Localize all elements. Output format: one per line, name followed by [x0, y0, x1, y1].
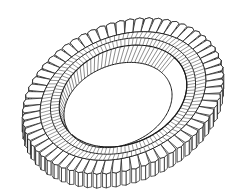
tooth-side: [31, 145, 34, 161]
tooth-side: [47, 160, 51, 175]
tooth-side: [93, 173, 97, 188]
tooth-side: [112, 172, 116, 187]
washer-drawing: [0, 0, 244, 192]
tooth-side: [61, 168, 65, 182]
tooth-side: [97, 173, 101, 188]
tooth-side: [151, 162, 155, 177]
tooth-side: [116, 171, 120, 187]
tooth-top: [125, 19, 134, 33]
tooth-side: [141, 166, 145, 180]
tooth-side: [132, 169, 136, 183]
tooth-side: [103, 173, 107, 188]
tooth-side: [136, 166, 140, 182]
washer-diagram: [0, 0, 244, 192]
tooth-side: [87, 173, 91, 188]
tooth-side: [41, 156, 45, 171]
tooth-side: [106, 173, 110, 188]
tooth-top: [26, 92, 44, 99]
tooth-top: [116, 21, 125, 35]
tooth-side: [126, 169, 130, 185]
tooth-side: [122, 171, 126, 185]
tooth-side: [36, 150, 39, 165]
tooth-top: [121, 157, 130, 171]
tooth-side: [185, 141, 189, 157]
tooth-side: [54, 164, 58, 178]
tooth-top: [202, 94, 220, 101]
tooth-side: [78, 172, 82, 187]
tooth-top: [112, 159, 121, 173]
tooth-side: [177, 147, 181, 163]
tooth-side: [169, 152, 173, 167]
tooth-side: [75, 171, 78, 187]
tooth-side: [84, 172, 87, 188]
tooth-side: [192, 134, 196, 150]
tooth-top: [204, 87, 222, 94]
tooth-side: [67, 168, 70, 184]
tooth-side: [160, 157, 164, 172]
tooth-side: [70, 170, 74, 184]
